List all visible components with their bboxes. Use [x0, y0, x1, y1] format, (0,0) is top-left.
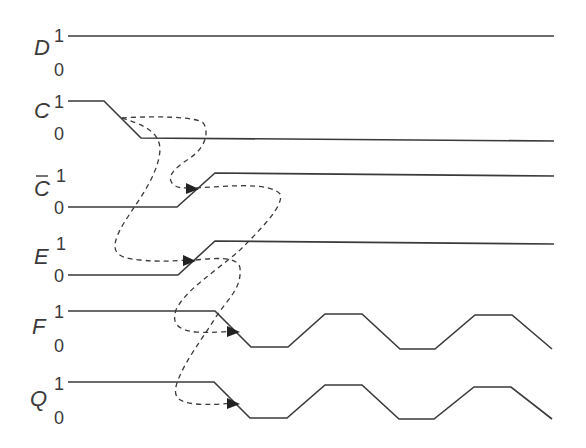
signal-e-waveform: [68, 241, 554, 275]
signal-d-label: D: [34, 35, 50, 60]
signal-f-label: F: [32, 314, 47, 339]
signal-e-label: E: [34, 244, 49, 269]
signal-c-waveform: [68, 101, 554, 141]
causal-arrows: [115, 117, 281, 409]
signal-f-high-label: 1: [54, 302, 64, 322]
signal-c-bar-low-label: 0: [54, 198, 64, 218]
signal-c: C 1 0: [34, 92, 554, 144]
signal-c-bar-label: C: [34, 176, 50, 201]
signal-q-label: Q: [30, 386, 47, 411]
signal-f-waveform: [68, 311, 552, 349]
signal-q: Q 1 0: [30, 374, 552, 428]
arrowhead-icon: [227, 326, 240, 337]
signal-q-waveform: [68, 382, 552, 419]
timing-diagram: D 1 0 C 1 0 C 1 0 E 1 0 F 1 0 Q 1 0: [0, 0, 586, 448]
causal-arrow-c-to-e: [115, 118, 188, 261]
signal-d: D 1 0: [34, 26, 554, 80]
signal-q-high-label: 1: [54, 374, 64, 394]
arrowhead-icon: [227, 398, 240, 409]
signal-d-low-label: 0: [54, 60, 64, 80]
signal-f: F 1 0: [32, 302, 552, 356]
signal-c-bar: C 1 0: [34, 166, 554, 218]
causal-arrow-c-to-cbar: [122, 117, 206, 188]
signal-c-high-label: 1: [54, 92, 64, 112]
signal-e-low-label: 0: [54, 266, 64, 286]
signal-q-low-label: 0: [54, 408, 64, 428]
signal-c-low-label: 0: [54, 124, 64, 144]
signal-e: E 1 0: [34, 234, 554, 286]
signal-c-label: C: [34, 98, 50, 123]
signal-d-high-label: 1: [54, 26, 64, 46]
signal-c-bar-waveform: [68, 173, 554, 207]
signal-f-low-label: 0: [54, 336, 64, 356]
signal-e-high-label: 1: [56, 234, 66, 254]
signal-c-bar-high-label: 1: [56, 166, 66, 186]
